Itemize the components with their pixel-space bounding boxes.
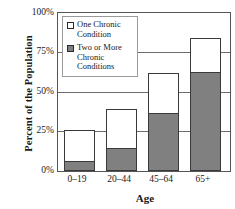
bar-0-19 — [64, 130, 95, 171]
legend-item-one-chronic-condition: One ChronicCondition — [67, 20, 133, 39]
bar-segment-two-or-more-0-19 — [65, 161, 94, 171]
y-tick-label-0: 0% — [24, 165, 54, 175]
y-tick-label-75: 75% — [24, 46, 54, 56]
plot-area: One ChronicCondition Two or MoreChronicC… — [57, 12, 231, 172]
legend-item-two-or-more-chronic-conditions: Two or MoreChronicConditions — [67, 43, 133, 72]
y-axis-tick-labels: 100% 75% 50% 25% 0% — [22, 0, 54, 209]
y-tick-label-50: 50% — [24, 86, 54, 96]
legend-label-one-chronic-condition: One ChronicCondition — [77, 20, 121, 39]
x-tick-label-20-44: 20–44 — [97, 174, 141, 184]
bar-65-plus — [190, 38, 221, 171]
legend-label-two-or-more-chronic-conditions: Two or MoreChronicConditions — [77, 43, 122, 72]
bar-segment-two-or-more-45-64 — [149, 113, 178, 170]
legend-swatch-gray-icon — [67, 45, 74, 52]
y-tick-label-100: 100% — [24, 7, 54, 17]
bar-45-64 — [148, 73, 179, 171]
bar-chart: Percent of the Population 100% 75% 50% 2… — [0, 0, 235, 209]
x-axis-title: Age — [56, 192, 234, 204]
bar-20-44 — [106, 109, 137, 171]
bar-segment-two-or-more-65-plus — [191, 72, 220, 170]
x-tick-label-65-plus: 65+ — [181, 174, 225, 184]
x-tick-label-0-19: 0–19 — [55, 174, 99, 184]
y-tick-label-25: 25% — [24, 125, 54, 135]
x-tick-label-45-64: 45–64 — [139, 174, 183, 184]
legend-swatch-white-icon — [67, 22, 74, 29]
bar-segment-two-or-more-20-44 — [107, 148, 136, 170]
legend: One ChronicCondition Two or MoreChronicC… — [62, 16, 138, 77]
